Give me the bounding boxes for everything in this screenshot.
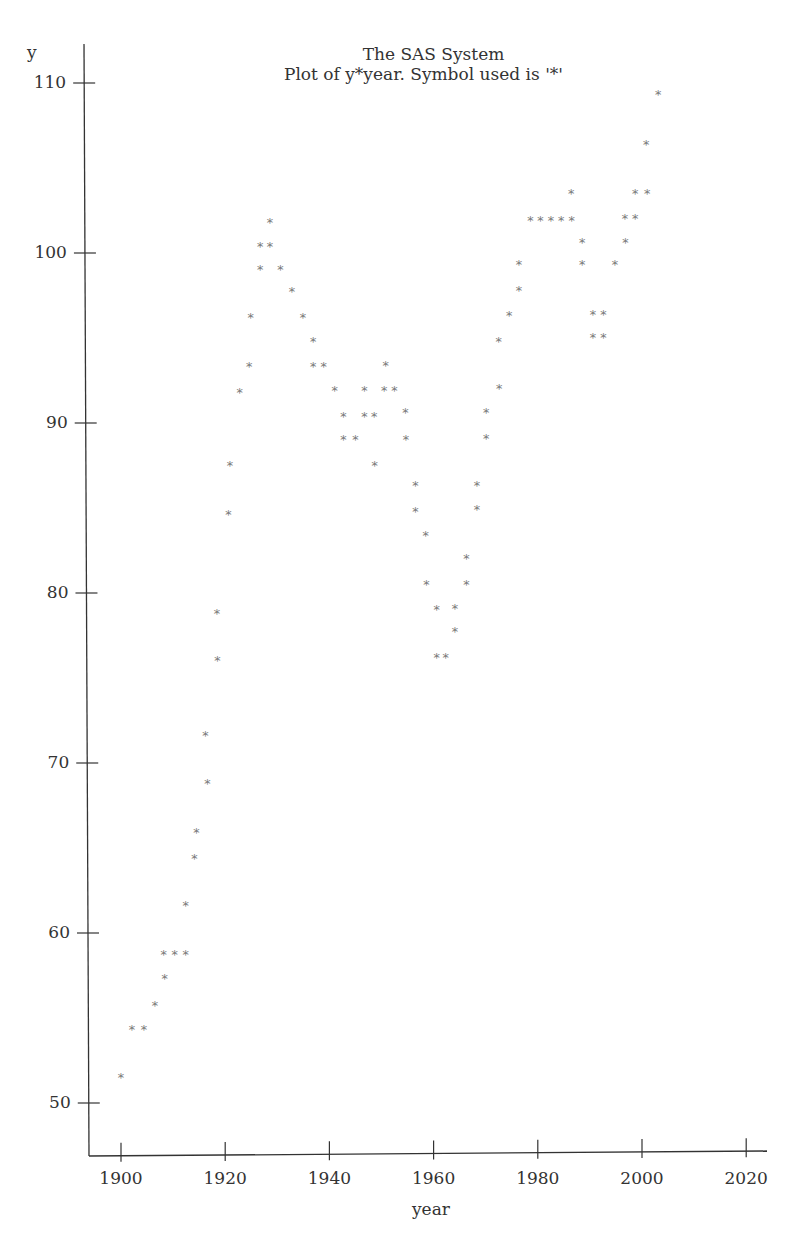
data-point-marker: * xyxy=(493,334,505,346)
data-point-marker: * xyxy=(138,1022,150,1034)
data-point-marker: * xyxy=(297,310,309,322)
data-point-marker: * xyxy=(449,624,461,636)
data-point-marker: * xyxy=(368,409,380,421)
data-point-marker: * xyxy=(264,239,276,251)
data-point-marker: * xyxy=(274,262,286,274)
data-point-marker: * xyxy=(211,653,223,665)
x-tick-label: 1980 xyxy=(508,1168,568,1188)
data-point-marker: * xyxy=(471,478,483,490)
data-point-marker: * xyxy=(307,334,319,346)
y-tick-label: 70 xyxy=(29,752,69,772)
data-point-marker: * xyxy=(115,1070,127,1082)
data-point-marker: * xyxy=(471,502,483,514)
y-axis-line xyxy=(84,44,89,1156)
x-tick-label: 2000 xyxy=(612,1168,672,1188)
data-point-marker: * xyxy=(254,262,266,274)
data-point-marker: * xyxy=(264,215,276,227)
data-point-marker: * xyxy=(349,432,361,444)
data-point-marker: * xyxy=(400,432,412,444)
data-point-marker: * xyxy=(149,998,161,1010)
data-point-marker: * xyxy=(641,186,653,198)
data-point-marker: * xyxy=(480,431,492,443)
data-point-marker: * xyxy=(449,601,461,613)
data-point-marker: * xyxy=(409,478,421,490)
data-point-marker: * xyxy=(180,947,192,959)
y-tick-label: 50 xyxy=(31,1092,71,1112)
data-point-marker: * xyxy=(286,284,298,296)
data-point-marker: * xyxy=(566,213,578,225)
data-point-marker: * xyxy=(576,257,588,269)
data-point-marker: * xyxy=(431,602,443,614)
data-point-marker: * xyxy=(318,359,330,371)
data-point-marker: * xyxy=(337,409,349,421)
data-point-marker: * xyxy=(460,551,472,563)
data-point-marker: * xyxy=(180,898,192,910)
data-point-marker: * xyxy=(380,358,392,370)
x-axis-line xyxy=(89,1151,767,1156)
data-point-marker: * xyxy=(503,308,515,320)
data-point-marker: * xyxy=(399,405,411,417)
data-point-marker: * xyxy=(126,1022,138,1034)
data-point-marker: * xyxy=(597,330,609,342)
data-point-marker: * xyxy=(389,383,401,395)
data-point-marker: * xyxy=(640,137,652,149)
data-point-marker: * xyxy=(358,383,370,395)
data-point-marker: * xyxy=(460,577,472,589)
data-point-marker: * xyxy=(609,257,621,269)
data-point-marker: * xyxy=(420,577,432,589)
data-point-marker: * xyxy=(409,504,421,516)
data-point-marker: * xyxy=(159,971,171,983)
x-tick-label: 1940 xyxy=(299,1168,359,1188)
x-tick-label: 1900 xyxy=(91,1168,151,1188)
data-point-marker: * xyxy=(493,381,505,393)
data-point-marker: * xyxy=(576,235,588,247)
data-point-marker: * xyxy=(234,385,246,397)
x-tick-label: 1960 xyxy=(404,1168,464,1188)
x-tick-label: 1920 xyxy=(195,1168,255,1188)
data-point-marker: * xyxy=(329,383,341,395)
y-tick-label: 90 xyxy=(28,412,68,432)
data-point-marker: * xyxy=(191,825,203,837)
data-point-marker: * xyxy=(245,310,257,322)
data-point-marker: * xyxy=(565,186,577,198)
data-point-marker: * xyxy=(222,507,234,519)
data-point-marker: * xyxy=(652,87,664,99)
data-point-marker: * xyxy=(440,650,452,662)
data-point-marker: * xyxy=(420,528,432,540)
data-point-marker: * xyxy=(201,776,213,788)
data-point-marker: * xyxy=(243,359,255,371)
data-point-marker: * xyxy=(629,186,641,198)
data-point-marker: * xyxy=(480,405,492,417)
data-point-marker: * xyxy=(369,458,381,470)
y-tick-label: 110 xyxy=(26,72,66,92)
plot-area xyxy=(0,0,795,1243)
data-point-marker: * xyxy=(629,211,641,223)
y-tick-label: 100 xyxy=(27,242,67,262)
y-tick-label: 60 xyxy=(30,922,70,942)
data-point-marker: * xyxy=(211,606,223,618)
x-axis-ticks xyxy=(121,1138,746,1162)
data-point-marker: * xyxy=(597,307,609,319)
data-point-marker: * xyxy=(199,728,211,740)
y-axis-ticks xyxy=(73,83,100,1103)
data-point-marker: * xyxy=(513,257,525,269)
data-point-marker: * xyxy=(224,458,236,470)
data-point-marker: * xyxy=(337,432,349,444)
x-tick-label: 2020 xyxy=(716,1168,776,1188)
data-point-marker: * xyxy=(513,283,525,295)
y-tick-label: 80 xyxy=(28,582,68,602)
data-point-marker: * xyxy=(619,235,631,247)
data-point-marker: * xyxy=(188,851,200,863)
